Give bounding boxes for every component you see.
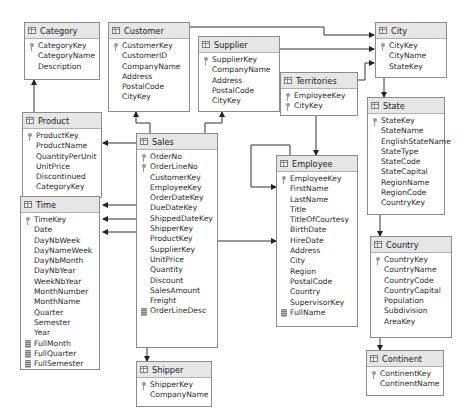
column-row[interactable]: Freight	[137, 296, 217, 306]
column-row[interactable]: OrderLineNo	[137, 162, 217, 172]
column-row[interactable]: Year	[21, 328, 99, 338]
table-time[interactable]: TimeTimeKeyDateDayNbWeekDayNameWeekDayNb…	[20, 196, 100, 370]
table-header[interactable]: Sales	[137, 134, 217, 150]
column-row[interactable]: LastName	[277, 195, 357, 205]
column-row[interactable]: HireDate	[277, 236, 357, 246]
column-row[interactable]: CustomerKey	[137, 173, 217, 183]
column-row[interactable]: Population	[371, 296, 451, 306]
column-row[interactable]: StateCode	[368, 157, 444, 167]
column-row[interactable]: SupervisorKey	[277, 298, 357, 308]
column-row[interactable]: CategoryKey	[23, 182, 101, 192]
column-row[interactable]: Description	[25, 62, 99, 72]
column-row[interactable]: Region	[277, 267, 357, 277]
column-row[interactable]: SupplierKey	[199, 55, 279, 65]
table-continent[interactable]: ContinentContinentKeyContinentName	[366, 350, 444, 396]
column-row[interactable]: CityName	[376, 51, 446, 61]
column-row[interactable]: RegionCode	[368, 188, 444, 198]
table-header[interactable]: Country	[371, 237, 451, 253]
column-row[interactable]: CountryCode	[371, 276, 451, 286]
column-row[interactable]: CategoryName	[25, 51, 99, 61]
column-row[interactable]: ContinentKey	[367, 369, 443, 379]
table-product[interactable]: ProductProductKeyProductNameQuantityPerU…	[22, 112, 102, 198]
table-header[interactable]: Continent	[367, 351, 443, 367]
column-row[interactable]: StateCapital	[368, 167, 444, 177]
column-row[interactable]: PostalCode	[109, 82, 189, 92]
column-row[interactable]: CityKey	[281, 101, 357, 111]
column-row[interactable]: EnglishStateName	[368, 137, 444, 147]
table-territories[interactable]: TerritoriesEmployeeKeyCityKey	[280, 72, 358, 116]
column-row[interactable]: QuantityPerUnit	[23, 152, 101, 162]
column-row[interactable]: EmployeeKey	[137, 183, 217, 193]
column-row[interactable]: DueDateKey	[137, 203, 217, 213]
column-row[interactable]: FullMonth	[21, 339, 99, 349]
column-row[interactable]: Discount	[137, 276, 217, 286]
column-row[interactable]: SupplierKey	[137, 245, 217, 255]
column-row[interactable]: StateKey	[368, 116, 444, 126]
column-row[interactable]: Quarter	[21, 308, 99, 318]
column-row[interactable]: WeekNbYear	[21, 277, 99, 287]
column-row[interactable]: OrderNo	[137, 152, 217, 162]
column-row[interactable]: City	[277, 256, 357, 266]
table-header[interactable]: City	[376, 23, 446, 39]
column-row[interactable]: BirthDate	[277, 225, 357, 235]
column-row[interactable]: CityKey	[376, 41, 446, 51]
column-row[interactable]: ProductKey	[137, 234, 217, 244]
column-row[interactable]: CompanyName	[137, 390, 211, 400]
column-row[interactable]: DayNbYear	[21, 266, 99, 276]
column-row[interactable]: Title	[277, 205, 357, 215]
column-row[interactable]: TitleOfCourtesy	[277, 215, 357, 225]
column-row[interactable]: CategoryKey	[25, 41, 99, 51]
column-row[interactable]: CustomerID	[109, 51, 189, 61]
table-state[interactable]: StateStateKeyStateNameEnglishStateNameSt…	[367, 97, 445, 215]
column-row[interactable]: FullSemester	[21, 359, 99, 369]
column-row[interactable]: StateKey	[376, 62, 446, 72]
column-row[interactable]: Address	[109, 72, 189, 82]
column-row[interactable]: ContinentName	[367, 379, 443, 389]
table-header[interactable]: Supplier	[199, 37, 279, 53]
column-row[interactable]: FullQuarter	[21, 349, 99, 359]
column-row[interactable]: EmployeeKey	[277, 174, 357, 184]
column-row[interactable]: FullName	[277, 308, 357, 318]
column-row[interactable]: AreaKey	[371, 317, 451, 327]
column-row[interactable]: MonthNumber	[21, 287, 99, 297]
column-row[interactable]: PostalCode	[277, 277, 357, 287]
column-row[interactable]: OrderDateKey	[137, 193, 217, 203]
column-row[interactable]: ShipperKey	[137, 380, 211, 390]
column-row[interactable]: ShipperKey	[137, 224, 217, 234]
column-row[interactable]: DayNbMonth	[21, 256, 99, 266]
column-row[interactable]: FirstName	[277, 184, 357, 194]
table-employee[interactable]: EmployeeEmployeeKeyFirstNameLastNameTitl…	[276, 155, 358, 327]
column-row[interactable]: CompanyName	[199, 65, 279, 75]
column-row[interactable]: Address	[199, 76, 279, 86]
column-row[interactable]: SalesAmount	[137, 286, 217, 296]
table-header[interactable]: Time	[21, 197, 99, 213]
column-row[interactable]: PostalCode	[199, 86, 279, 96]
column-row[interactable]: UnitPrice	[137, 255, 217, 265]
column-row[interactable]: CityKey	[109, 92, 189, 102]
table-shipper[interactable]: ShipperShipperKeyCompanyName	[136, 361, 212, 407]
column-row[interactable]: DayNameWeek	[21, 246, 99, 256]
column-row[interactable]: CountryName	[371, 265, 451, 275]
table-sales[interactable]: SalesOrderNoOrderLineNoCustomerKeyEmploy…	[136, 133, 218, 348]
column-row[interactable]: Country	[277, 287, 357, 297]
table-header[interactable]: State	[368, 98, 444, 114]
table-city[interactable]: CityCityKeyCityNameStateKey	[375, 22, 447, 78]
column-row[interactable]: Quantity	[137, 265, 217, 275]
column-row[interactable]: CompanyName	[109, 62, 189, 72]
column-row[interactable]: ShippedDateKey	[137, 214, 217, 224]
column-row[interactable]: TimeKey	[21, 215, 99, 225]
column-row[interactable]: Address	[277, 246, 357, 256]
table-supplier[interactable]: SupplierSupplierKeyCompanyNameAddressPos…	[198, 36, 280, 112]
table-header[interactable]: Product	[23, 113, 101, 129]
column-row[interactable]: ProductKey	[23, 131, 101, 141]
table-customer[interactable]: CustomerCustomerKeyCustomerIDCompanyName…	[108, 22, 190, 112]
column-row[interactable]: RegionName	[368, 178, 444, 188]
column-row[interactable]: CityKey	[199, 96, 279, 106]
column-row[interactable]: Date	[21, 225, 99, 235]
column-row[interactable]: Discontinued	[23, 172, 101, 182]
column-row[interactable]: UnitPrice	[23, 162, 101, 172]
column-row[interactable]: StateType	[368, 147, 444, 157]
table-category[interactable]: CategoryCategoryKeyCategoryNameDescripti…	[24, 22, 100, 80]
column-row[interactable]: OrderLineDesc	[137, 306, 217, 316]
column-row[interactable]: EmployeeKey	[281, 91, 357, 101]
